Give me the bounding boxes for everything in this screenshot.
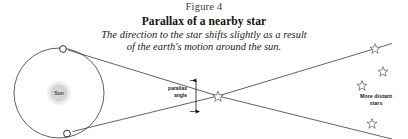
distant-star-3-icon — [357, 81, 367, 91]
figure-subtitle: The direction to the star shifts slightl… — [0, 29, 408, 53]
parallax-angle-label-line-2: angle — [174, 92, 187, 98]
nearby-star-icon — [213, 91, 223, 101]
figure-header: Figure 4 Parallax of a nearby star The d… — [0, 0, 408, 53]
parallax-angle-label-line-1: parallax — [168, 85, 187, 91]
distant-star-2-icon — [378, 67, 388, 77]
distant-stars-label-line-2: stars — [370, 100, 383, 106]
figure-subtitle-line-1: The direction to the star shifts slightl… — [0, 29, 408, 41]
figure-number: Figure 4 — [0, 1, 408, 13]
figure-title: Parallax of a nearby star — [0, 14, 408, 28]
distant-star-4-icon — [367, 119, 377, 129]
earth-position-bottom-marker — [64, 130, 71, 137]
figure-subtitle-line-2: of the earth's motion around the sun. — [0, 41, 408, 53]
sun-label: Sun — [54, 90, 63, 96]
figure-root: Figure 4 Parallax of a nearby star The d… — [0, 0, 408, 139]
sight-line-bottom — [73, 96, 393, 139]
distant-stars-label-line-1: More distant — [360, 93, 392, 99]
